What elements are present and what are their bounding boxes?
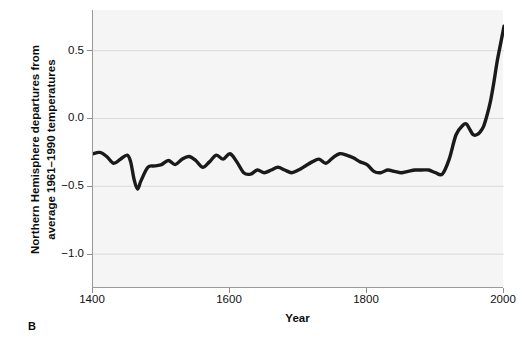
y-axis-tick-mark [87, 186, 92, 187]
y-axis-tick-mark [87, 254, 92, 255]
x-axis-tick-label: 1400 [62, 294, 122, 306]
plot-svg [93, 10, 504, 288]
x-axis-tick-label: 1800 [336, 294, 396, 306]
y-axis-title: Northern Hemisphere departures from aver… [28, 10, 59, 290]
x-axis-tick-mark [366, 288, 367, 293]
plot-area [92, 10, 503, 288]
x-axis-title: Year [92, 312, 503, 324]
y-axis-tick-mark [87, 118, 92, 119]
panel-label: B [28, 320, 36, 332]
gridlines [93, 51, 504, 254]
y-axis-title-line-2: average 1961–1990 temperatures [45, 59, 57, 239]
y-axis-title-line-1: Northern Hemisphere departures from [29, 45, 41, 254]
y-axis-tick-mark [87, 50, 92, 51]
x-axis-tick-mark [229, 288, 230, 293]
y-axis-title-wrapper: Northern Hemisphere departures from aver… [28, 10, 59, 290]
x-axis-tick-mark [92, 288, 93, 293]
x-axis-tick-label: 1600 [199, 294, 259, 306]
figure-panel-b: 0.50.0−0.5−1.0 1400160018002000 Year Nor… [0, 0, 531, 344]
x-axis-tick-mark [503, 288, 504, 293]
x-axis-tick-label: 2000 [473, 294, 531, 306]
